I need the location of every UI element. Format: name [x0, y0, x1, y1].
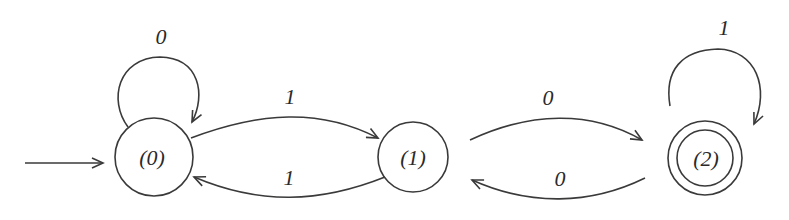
state-diagram: (0) (1) (2) 0 1 1 0 [0, 0, 789, 220]
transition-s0-s1: 1 [191, 84, 378, 138]
transition-s0-s0: 0 [118, 24, 199, 127]
diagram-svg: (0) (1) (2) 0 1 1 0 [0, 0, 789, 220]
state-0: (0) [115, 118, 193, 196]
transition-s2-s1: 0 [472, 166, 645, 199]
state-0-label: (0) [139, 145, 165, 170]
state-1: (1) [378, 122, 448, 192]
transition-label: 1 [285, 84, 296, 109]
transition-s1-s0: 1 [194, 165, 385, 197]
state-2-accepting: (2) [668, 121, 742, 195]
transition-label: 0 [543, 85, 554, 110]
transition-label: 0 [555, 166, 566, 191]
transition-s1-s2: 0 [470, 85, 642, 140]
transition-label: 0 [156, 24, 167, 49]
transition-s2-s2: 1 [669, 15, 761, 124]
transition-label: 1 [284, 165, 295, 190]
state-1-label: (1) [400, 145, 426, 170]
transition-label: 1 [719, 15, 730, 40]
state-2-label: (2) [693, 146, 719, 171]
